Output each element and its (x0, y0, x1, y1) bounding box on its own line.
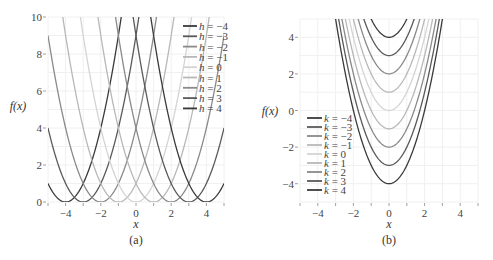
x-tick-label: −2 (95, 207, 107, 219)
y-tick-label: −4 (282, 178, 294, 190)
y-tick-label: 10 (31, 11, 43, 23)
legend-label: h = 4 (199, 102, 222, 114)
y-tick-label: 0 (37, 196, 43, 208)
x-axis-label: x (132, 217, 139, 231)
y-tick-label: 4 (289, 31, 295, 43)
x-tick-label: −2 (348, 207, 360, 219)
x-tick-label: −4 (312, 207, 324, 219)
x-tick-label: −4 (60, 207, 72, 219)
y-axis-label: f(x) (10, 99, 27, 113)
y-tick-label: 2 (289, 68, 295, 80)
panel-caption: (a) (129, 233, 142, 247)
panel-caption: (b) (382, 233, 396, 247)
y-tick-label: 6 (37, 85, 43, 97)
y-tick-label: 4 (37, 122, 43, 134)
x-tick-label: 2 (422, 207, 428, 219)
x-tick-label: 4 (204, 207, 210, 219)
y-tick-label: 8 (37, 48, 43, 60)
legend-label: k = 4 (324, 184, 347, 196)
legend: k = −4k = −3k = −2k = −1k = 0k = 1k = 2k… (305, 112, 357, 196)
x-tick-label: 4 (457, 207, 463, 219)
y-tick-label: −2 (282, 141, 294, 153)
figure: 0246810−4−2024h = −4h = −3h = −2h = −1h … (0, 0, 493, 260)
x-axis-label: x (385, 217, 392, 231)
y-axis-label: f(x) (262, 104, 279, 118)
y-tick-label: 2 (37, 159, 43, 171)
legend: h = −4h = −3h = −2h = −1h = 0h = 1h = 2h… (181, 20, 233, 115)
x-tick-label: 2 (168, 207, 174, 219)
y-tick-label: 0 (289, 105, 295, 117)
chart-panel-a: 0246810−4−2024h = −4h = −3h = −2h = −1h … (10, 0, 233, 247)
chart-panel-b: −4−2024−4−2024k = −4k = −3k = −2k = −1k … (262, 0, 478, 247)
